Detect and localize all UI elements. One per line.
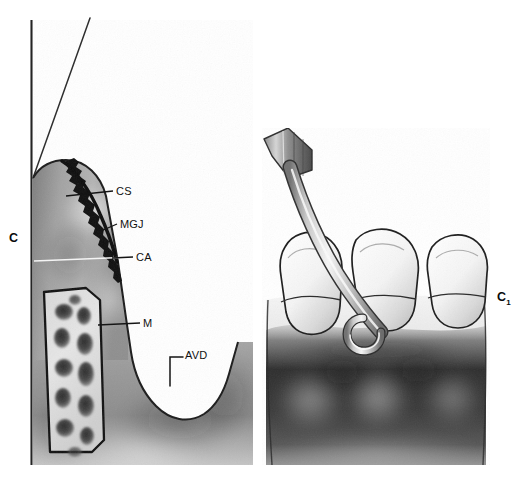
panel-letter-c: C [9, 232, 18, 245]
panel-letter-c1: C1 [497, 291, 511, 307]
annotation-label-ca: CA [136, 252, 152, 263]
panel-letter-c1-base: C [497, 290, 506, 304]
illustration-canvas [0, 0, 522, 482]
annotation-label-mgj: MGJ [120, 219, 144, 230]
panel-letter-c1-subscript: 1 [506, 298, 511, 307]
figure-root: CS MGJ CA M AVD C C1 [0, 0, 522, 482]
annotation-label-avd: AVD [185, 350, 207, 361]
panel-c1 [262, 128, 490, 470]
annotation-label-m: M [143, 318, 152, 329]
annotation-label-cs: CS [116, 186, 132, 197]
panel-c [30, 18, 259, 481]
